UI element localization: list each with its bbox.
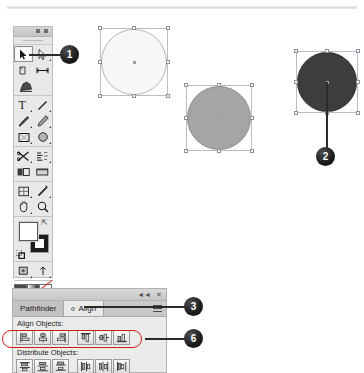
distribute-right-button[interactable] — [113, 359, 130, 373]
tool-group-transform — [14, 147, 52, 182]
tool-paintbrush[interactable] — [14, 113, 33, 129]
align-vertical-center-button[interactable] — [95, 330, 112, 345]
collapse-icon[interactable] — [36, 29, 40, 33]
resize-handle-middle-right[interactable] — [356, 80, 360, 84]
tab-pathfinder[interactable]: Pathfinder — [13, 301, 64, 316]
tool-pen[interactable] — [14, 78, 52, 94]
resize-handle-bottom-left[interactable] — [184, 149, 188, 153]
resize-handle-top-left[interactable] — [294, 49, 298, 53]
align-left-button[interactable] — [16, 330, 33, 345]
callout-1-leader — [29, 54, 64, 56]
align-panel-titlebar[interactable]: ◄◄ ✕ — [13, 289, 166, 301]
resize-handle-middle-left[interactable] — [184, 116, 188, 120]
tool-row — [14, 113, 52, 129]
tool-row — [14, 148, 52, 164]
resize-handle-bottom-left[interactable] — [294, 111, 298, 115]
tool-rectangle[interactable] — [14, 129, 33, 145]
tool-free-transform[interactable] — [14, 164, 33, 180]
align-panel: ◄◄ ✕ Pathfinder Align Align Objects: — [12, 288, 167, 373]
tool-group-draw-modes — [14, 262, 52, 281]
tool-type[interactable]: T — [14, 97, 33, 113]
resize-handle-bottom-right[interactable] — [250, 149, 254, 153]
fill-swatch[interactable] — [19, 222, 38, 241]
tool-flyout-corner-icon — [30, 110, 32, 112]
tool-eyedropper[interactable] — [33, 183, 52, 199]
align-tab-icon — [71, 307, 75, 311]
close-icon[interactable]: ✕ — [156, 291, 162, 298]
distribute-top-button[interactable] — [16, 359, 33, 373]
resize-handle-bottom-center[interactable] — [217, 149, 221, 153]
tool-rotate[interactable] — [14, 148, 33, 164]
callout-6-leader — [145, 338, 188, 340]
resize-handle-bottom-right[interactable] — [166, 94, 170, 98]
tool-blob-brush[interactable] — [33, 129, 52, 145]
fill-stroke-controls: ⇱ — [14, 217, 52, 262]
distribute-vertical-center-button[interactable] — [34, 359, 51, 373]
resize-handle-middle-right[interactable] — [250, 116, 254, 120]
align-horizontal-center-button[interactable] — [34, 330, 51, 345]
callout-2-leader — [326, 82, 328, 150]
tool-row — [14, 164, 52, 180]
tool-flyout-corner-icon — [49, 276, 51, 278]
align-right-button[interactable] — [52, 330, 69, 345]
tool-row — [14, 263, 52, 279]
swap-fill-stroke-icon[interactable]: ⇱ — [41, 219, 48, 227]
tool-lasso[interactable] — [33, 62, 52, 78]
center-point — [133, 61, 136, 64]
resize-handle-top-right[interactable] — [166, 26, 170, 30]
default-fill-stroke-icon[interactable] — [16, 250, 25, 259]
light-circle[interactable] — [100, 28, 168, 96]
collapse-icon[interactable]: ◄◄ — [137, 291, 151, 298]
tool-flyout-corner-icon — [49, 196, 51, 198]
tool-row — [14, 78, 52, 94]
distribute-bottom-button[interactable] — [52, 359, 69, 373]
callout-marker-1: 1 — [60, 45, 79, 64]
resize-handle-middle-left[interactable] — [98, 60, 102, 64]
callout-marker-3: 3 — [184, 297, 203, 316]
resize-handle-middle-left[interactable] — [294, 80, 298, 84]
distribute-horizontal-center-button[interactable] — [95, 359, 112, 373]
close-icon[interactable] — [44, 29, 48, 33]
svg-text:T: T — [19, 99, 27, 111]
tool-flyout-corner-icon — [49, 142, 51, 144]
resize-handle-top-left[interactable] — [98, 26, 102, 30]
tool-scale[interactable] — [33, 148, 52, 164]
center-point — [218, 117, 221, 120]
tool-symbol-sprayer[interactable] — [14, 263, 33, 279]
tool-zoom[interactable] — [33, 199, 52, 215]
tool-mesh[interactable] — [14, 183, 33, 199]
resize-handle-middle-right[interactable] — [166, 60, 170, 64]
tab-align[interactable]: Align — [64, 301, 104, 316]
resize-handle-top-center[interactable] — [217, 83, 221, 87]
document-ruler — [7, 6, 357, 9]
tool-group-drawing: T — [14, 96, 52, 147]
tools-panel-grip[interactable] — [14, 37, 52, 45]
panel-tab-bar: Pathfinder Align — [13, 301, 166, 317]
resize-handle-top-right[interactable] — [250, 83, 254, 87]
distribute-left-button[interactable] — [77, 359, 94, 373]
resize-handle-bottom-center[interactable] — [132, 94, 136, 98]
resize-handle-top-center[interactable] — [325, 49, 329, 53]
tool-shape-builder[interactable] — [33, 164, 52, 180]
align-bottom-button[interactable] — [113, 330, 130, 345]
resize-handle-bottom-right[interactable] — [356, 111, 360, 115]
tool-pencil[interactable] — [33, 113, 52, 129]
resize-handle-top-left[interactable] — [184, 83, 188, 87]
tool-hand[interactable] — [14, 199, 33, 215]
resize-handle-top-right[interactable] — [356, 49, 360, 53]
tool-line-segment[interactable] — [33, 97, 52, 113]
tool-flyout-corner-icon — [30, 276, 32, 278]
gray-circle[interactable] — [186, 85, 252, 151]
tool-flyout-corner-icon — [49, 59, 51, 61]
tool-row — [14, 129, 52, 145]
tool-column-graph[interactable] — [33, 263, 52, 279]
tool-magic-wand[interactable] — [14, 62, 33, 78]
resize-handle-bottom-left[interactable] — [98, 94, 102, 98]
tool-flyout-corner-icon — [49, 161, 51, 163]
tool-flyout-corner-icon — [30, 212, 32, 214]
callout-marker-6: 6 — [184, 329, 203, 348]
tools-panel-titlebar[interactable] — [14, 27, 52, 37]
resize-handle-top-center[interactable] — [132, 26, 136, 30]
align-top-button[interactable] — [77, 330, 94, 345]
align-objects-row — [13, 329, 166, 346]
